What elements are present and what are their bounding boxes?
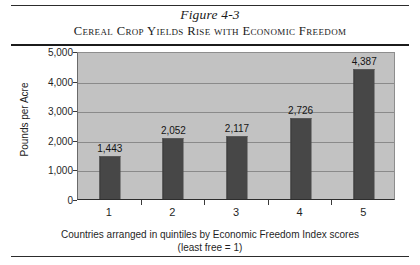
y-tick-label: 1,000 [24, 165, 73, 176]
bar [290, 118, 311, 199]
y-tick-label: 3,000 [24, 106, 73, 117]
y-tick-mark [73, 82, 77, 83]
x-tick-mark [204, 200, 205, 205]
y-tick-mark [73, 52, 77, 53]
bar-slot: 2,117 [205, 53, 269, 199]
plot-area: 1,4432,0522,1172,7264,387 [77, 52, 395, 200]
x-tick-mark [331, 200, 332, 205]
y-tick-label: 5,000 [24, 47, 73, 58]
bar-value-label: 1,443 [97, 143, 122, 154]
x-tick-label: 3 [233, 206, 239, 218]
bar-slot: 2,726 [269, 53, 333, 199]
figure-number: Figure 4-3 [0, 7, 420, 23]
figure-container: Figure 4-3 Cereal Crop Yields Rise with … [0, 0, 420, 265]
figure-caption: Cereal Crop Yields Rise with Economic Fr… [0, 23, 420, 40]
bar [99, 156, 120, 199]
x-tick-mark [268, 200, 269, 205]
x-tick-label: 5 [360, 206, 366, 218]
y-tick-mark [73, 170, 77, 171]
bar-series: 1,4432,0522,1172,7264,387 [78, 53, 394, 199]
chart-area: Pounds per Acre 01,0002,0003,0004,0005,0… [0, 52, 420, 224]
bottom-divider-rule [11, 256, 409, 257]
x-axis-caption: Countries arranged in quintiles by Econo… [0, 228, 420, 254]
y-tick-label: 0 [24, 195, 73, 206]
bar [354, 69, 375, 199]
bar-value-label: 2,117 [225, 123, 249, 134]
x-axis-caption-line2: (least free = 1) [0, 241, 420, 254]
bar [163, 138, 184, 199]
y-tick-label: 4,000 [24, 76, 73, 87]
bar-value-label: 4,387 [352, 56, 377, 67]
top-divider-rule [11, 5, 409, 6]
bar [226, 136, 247, 199]
x-tick-mark [141, 200, 142, 205]
y-axis-ticks: 01,0002,0003,0004,0005,000 [24, 52, 73, 200]
y-tick-mark [73, 200, 77, 201]
bar-slot: 1,443 [78, 53, 142, 199]
x-axis: 12345 [77, 200, 395, 224]
bar-slot: 2,052 [142, 53, 206, 199]
x-tick-label: 4 [297, 206, 303, 218]
y-tick-mark [73, 141, 77, 142]
y-tick-mark [73, 111, 77, 112]
bar-slot: 4,387 [332, 53, 396, 199]
x-tick-label: 1 [106, 206, 112, 218]
x-axis-caption-line1: Countries arranged in quintiles by Econo… [0, 228, 420, 241]
figure-title-block: Figure 4-3 Cereal Crop Yields Rise with … [0, 7, 420, 40]
y-tick-label: 2,000 [24, 135, 73, 146]
bar-value-label: 2,052 [161, 125, 186, 136]
x-tick-label: 2 [169, 206, 175, 218]
bar-value-label: 2,726 [288, 105, 313, 116]
